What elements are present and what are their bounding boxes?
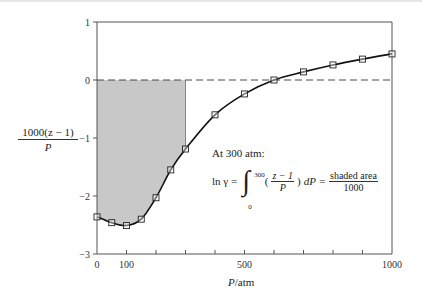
data-point-marker xyxy=(242,91,248,97)
data-point-marker xyxy=(389,51,395,57)
x-tick-label: 1000 xyxy=(382,259,402,270)
y-tick-label: −3 xyxy=(79,249,90,260)
x-axis-label-var: P xyxy=(228,276,235,288)
x-tick-label: 0 xyxy=(95,259,100,270)
formula-lhs: ln γ = xyxy=(212,175,237,187)
data-point-marker xyxy=(109,220,115,226)
paren-close: ) xyxy=(297,175,301,187)
y-axis-label-numerator: 1000(z − 1) xyxy=(18,126,78,140)
rhs-numerator: shaded area xyxy=(329,170,378,182)
x-tick-label: 500 xyxy=(237,259,252,270)
y-axis-label: 1000(z − 1) P xyxy=(18,126,78,153)
data-point-marker xyxy=(271,77,277,83)
annotation-formula: ln γ = ∫3000 ( z − 1 P ) dP = shaded are… xyxy=(212,167,378,195)
rhs-fraction: shaded area 1000 xyxy=(329,170,378,193)
integral-upper: 300 xyxy=(254,161,265,189)
x-tick-label: 100 xyxy=(119,259,134,270)
data-point-marker xyxy=(301,69,307,75)
data-point-marker xyxy=(360,56,366,62)
data-point-marker xyxy=(138,216,144,222)
data-point-marker xyxy=(330,62,336,68)
data-point-marker xyxy=(183,146,189,152)
y-axis-label-denominator: P xyxy=(18,140,78,153)
data-point-marker xyxy=(124,223,130,229)
data-point-marker xyxy=(168,167,174,173)
formula-dp: dP = xyxy=(304,175,326,187)
y-tick-label: −1 xyxy=(79,133,90,144)
y-tick-label: −2 xyxy=(79,191,90,202)
data-point-marker xyxy=(94,214,100,220)
data-point-marker xyxy=(153,195,159,201)
y-tick-label: 0 xyxy=(85,75,90,86)
paren-open: ( xyxy=(265,175,269,187)
y-tick-label: 1 xyxy=(85,17,90,28)
shaded-area xyxy=(97,80,186,226)
annotation-title: At 300 atm: xyxy=(212,147,378,159)
data-point-marker xyxy=(212,112,218,118)
integrand-fraction: z − 1 P xyxy=(271,170,294,193)
annotation: At 300 atm: ln γ = ∫3000 ( z − 1 P ) dP … xyxy=(212,147,378,195)
x-axis-label-unit: /atm xyxy=(235,276,255,288)
x-axis-label: P/atm xyxy=(228,276,254,288)
integrand-numerator: z − 1 xyxy=(271,170,294,182)
integral-lower: 0 xyxy=(248,193,252,221)
rhs-denominator: 1000 xyxy=(343,182,363,193)
integrand-denominator: P xyxy=(280,182,286,193)
integral-sign: ∫3000 xyxy=(242,167,250,195)
